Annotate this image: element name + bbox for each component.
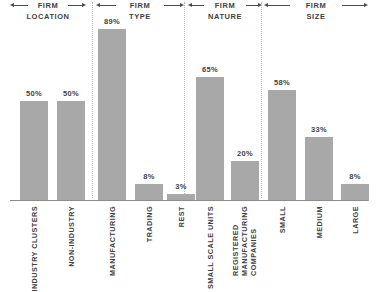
- plot-area: 50% 50% 89% 8% 3% 65% 20% 58% 33% 8%: [0, 0, 378, 201]
- bar-value-non-industry: 50%: [57, 89, 85, 98]
- bar-manufacturing: [98, 29, 126, 201]
- category-label-small: SMALL: [278, 206, 287, 233]
- bar-non-industry: [57, 101, 85, 201]
- category-label-manufacturing: MANUFACTURING: [108, 206, 117, 276]
- category-label-non-industry: NON-INDUSTRY: [67, 206, 76, 267]
- category-label-trading: TRADING: [145, 206, 154, 242]
- bar-registered-manufacturing-companies: [231, 161, 259, 201]
- category-label-small-scale-units: SMALL SCALE UNITS: [206, 206, 215, 289]
- bar-value-trading: 8%: [135, 172, 163, 181]
- bar-value-large: 8%: [341, 172, 369, 181]
- category-label-industry-clusters: INDUSTRY CLUSTERS: [30, 206, 39, 292]
- category-label-large: LARGE: [351, 206, 360, 234]
- category-label-registered-manufacturing-companies: REGISTERED MANUFACTURING COMPANIES: [231, 206, 258, 276]
- bar-industry-clusters: [20, 101, 48, 201]
- bar-small-scale-units: [196, 77, 224, 201]
- category-label-medium: MEDIUM: [315, 206, 324, 238]
- bar-small: [268, 90, 296, 201]
- bar-value-medium: 33%: [305, 125, 333, 134]
- bar-value-manufacturing: 89%: [98, 17, 126, 26]
- bar-value-registered-manufacturing-companies: 20%: [231, 149, 259, 158]
- x-axis-baseline: [10, 200, 368, 201]
- bar-value-small: 58%: [268, 78, 296, 87]
- bar-value-industry-clusters: 50%: [20, 89, 48, 98]
- bar-medium: [305, 137, 333, 201]
- bar-trading: [135, 184, 163, 201]
- bar-value-small-scale-units: 65%: [196, 65, 224, 74]
- bar-large: [341, 184, 369, 201]
- bar-value-rest: 3%: [167, 182, 195, 191]
- category-label-rest: REST: [177, 206, 186, 227]
